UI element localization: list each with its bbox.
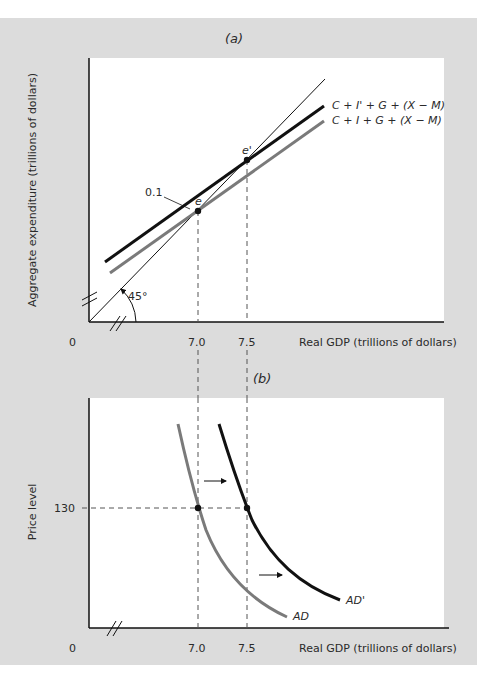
point-e [195,208,201,214]
panel-a-y-label: Aggregate expenditure (trillions of doll… [26,73,39,307]
point-ad-prime-130 [244,505,250,511]
panel-a-plot-area [89,58,444,322]
ad-label: AD [292,610,309,623]
panel-a-x-label: Real GDP (trillions of dollars) [299,336,457,349]
point-ad-130 [195,505,201,511]
panel-a-title: (a) [225,31,243,46]
panel-a-tick-70: 7.0 [188,336,206,349]
panel-b-tick-70: 7.0 [188,642,206,655]
panel-b-title: (b) [253,371,271,386]
ae-shifted-label: C + I' + G + (X − M) [332,99,445,112]
point-e-label: e [195,195,202,208]
point-e-prime [244,157,250,163]
ad-prime-label: AD' [345,594,365,607]
angle-label: 45° [128,290,148,303]
panel-b-plot-area [89,398,444,628]
ae-original-label: C + I + G + (X − M) [332,114,442,127]
point-e-prime-label: e' [242,144,252,157]
panel-a-origin-label: 0 [69,336,76,349]
panel-b-y-label: Price level [26,484,39,541]
panel-b-tick-130: 130 [54,502,75,515]
panel-b-origin-label: 0 [69,642,76,655]
panel-a-tick-75: 7.5 [238,336,256,349]
gap-label: 0.1 [145,186,163,199]
chart-canvas: (a) 45° 0.1 e e' C + I' + G + (X − M) C … [0,0,491,682]
panel-b-tick-75: 7.5 [238,642,256,655]
panel-b-x-label: Real GDP (trillions of dollars) [299,642,457,655]
